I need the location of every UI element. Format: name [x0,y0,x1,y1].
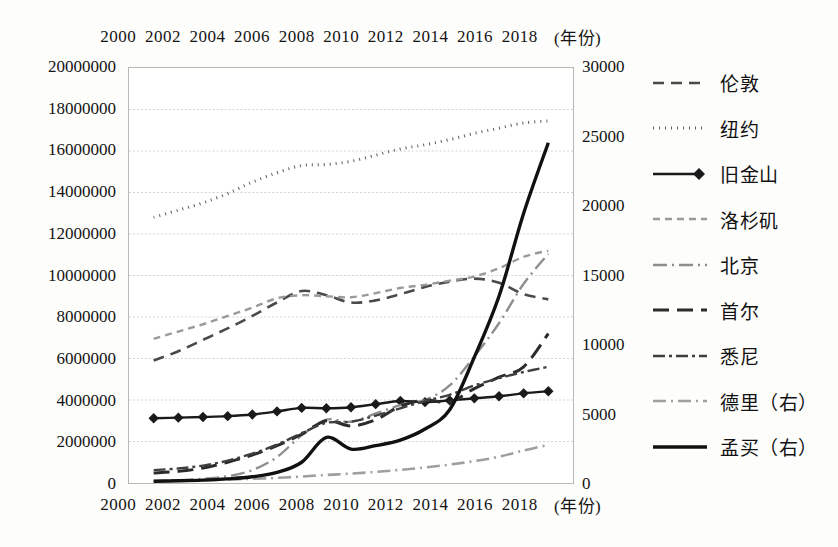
y-tick-label: 16000000 [48,140,116,160]
y-tick-label: 0 [108,474,117,494]
x-tick-label: 2018 [497,27,542,47]
legend-label: 洛杉矶 [720,206,779,233]
x-tick-label: 2008 [274,27,319,47]
x-tick-label: 2012 [364,495,409,515]
legend-item-7[interactable]: 德里（右） [652,379,838,425]
legend-item-3[interactable]: 洛杉矶 [652,197,838,243]
x-tick-label: 2016 [453,495,498,515]
x-axis-top: 2000200220042006200820102012201420162018… [96,24,601,49]
legend-line-icon [652,165,708,183]
series-line [154,143,549,481]
series-line [154,254,549,481]
series-marker [518,388,528,398]
legend-label: 悉尼 [720,342,759,369]
y-tick-label: 8000000 [57,307,117,327]
legend-item-0[interactable]: 伦敦 [652,60,838,106]
y-tick-label: 0 [582,474,591,494]
legend-item-8[interactable]: 孟买（右） [652,424,838,470]
series-marker [321,403,331,413]
legend-line-icon [652,210,708,228]
x-tick-label: 2004 [185,495,230,515]
x-tick-label: 2014 [408,495,453,515]
chart-legend: 伦敦纽约旧金山洛杉矶北京首尔悉尼德里（右）孟买（右） [652,60,838,470]
x-tick-label: 2010 [319,495,364,515]
x-axis-unit: (年份) [554,24,601,49]
y-tick-label: 20000 [582,196,625,216]
series-line [154,367,549,470]
legend-line-icon [652,256,708,274]
y-tick-label: 10000000 [48,266,116,286]
x-tick-label: 2006 [230,27,275,47]
legend-item-6[interactable]: 悉尼 [652,333,838,379]
y-tick-label: 10000 [582,335,625,355]
y-tick-label: 18000000 [48,99,116,119]
series-marker [543,386,553,396]
y-tick-label: 4000000 [57,391,117,411]
y-tick-label: 2000000 [57,432,117,452]
x-tick-label: 2018 [497,495,542,515]
series-marker [198,412,208,422]
legend-label: 纽约 [720,115,759,142]
y-axis-right: 050001000015000200002500030000 [582,67,652,484]
x-tick-label: 2008 [274,495,319,515]
series-8 [154,143,549,481]
legend-line-icon [652,301,708,319]
series-marker [148,413,158,423]
x-tick-label: 2002 [141,27,186,47]
series-marker [370,399,380,409]
legend-item-5[interactable]: 首尔 [652,288,838,334]
legend-item-2[interactable]: 旧金山 [652,151,838,197]
legend-label: 旧金山 [720,160,779,187]
legend-label: 北京 [720,251,759,278]
x-tick-label: 2002 [141,495,186,515]
legend-label: 德里（右） [720,388,818,415]
legend-line-icon [652,74,708,92]
y-tick-label: 14000000 [48,182,116,202]
x-tick-label: 2004 [185,27,230,47]
series-6 [154,367,549,470]
y-tick-label: 25000 [582,127,625,147]
series-marker [222,411,232,421]
y-tick-label: 30000 [582,57,625,77]
chart-figure: 2000200220042006200820102012201420162018… [0,0,838,547]
series-2 [148,386,553,423]
series-marker [346,402,356,412]
series-marker [272,406,282,416]
series-1 [154,121,549,217]
legend-line-icon [652,438,708,456]
x-axis-bottom: 2000200220042006200820102012201420162018… [96,492,601,517]
y-axis-left: 0200000040000006000000800000010000000120… [0,67,122,484]
y-tick-label: 20000000 [48,57,116,77]
legend-item-4[interactable]: 北京 [652,242,838,288]
series-marker [296,403,306,413]
x-tick-label: 2012 [364,27,409,47]
x-axis-unit: (年份) [554,492,601,517]
series-marker [469,393,479,403]
legend-label: 首尔 [720,297,759,324]
x-tick-label: 2000 [96,27,141,47]
plot-area [128,67,574,484]
x-tick-label: 2014 [408,27,453,47]
x-tick-label: 2006 [230,495,275,515]
x-tick-label: 2010 [319,27,364,47]
series-line [154,121,549,217]
y-tick-label: 15000 [582,266,625,286]
legend-line-icon [652,119,708,137]
legend-line-icon [652,392,708,410]
series-marker [173,412,183,422]
legend-item-1[interactable]: 纽约 [652,106,838,152]
y-tick-label: 6000000 [57,349,117,369]
series-canvas [129,68,573,483]
legend-label: 孟买（右） [720,433,818,460]
series-marker [247,409,257,419]
series-4 [154,254,549,481]
legend-line-icon [652,347,708,365]
x-tick-label: 2000 [96,495,141,515]
y-tick-label: 5000 [582,405,616,425]
x-tick-label: 2016 [453,27,498,47]
y-tick-label: 12000000 [48,224,116,244]
legend-label: 伦敦 [720,69,759,96]
